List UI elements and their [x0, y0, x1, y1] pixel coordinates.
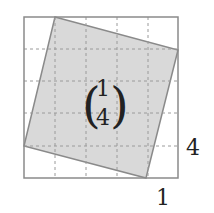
label-right: 4 [186, 135, 200, 160]
vector-top: 1 [96, 76, 110, 101]
right-paren: ) [110, 77, 129, 133]
vector-bottom: 4 [96, 105, 110, 130]
label-bottom: 1 [156, 185, 170, 210]
tilted-square-diagram: ( ) 1 4 4 1 [0, 0, 214, 213]
